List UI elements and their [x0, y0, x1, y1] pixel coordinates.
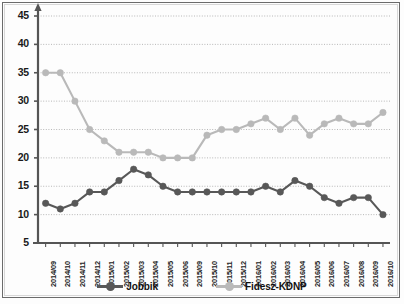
- legend-label: Jobbik: [126, 281, 158, 292]
- legend-swatch-marker: [225, 282, 234, 291]
- y-axis-tick-label: 10: [5, 208, 29, 220]
- y-axis-tick-label: 40: [5, 37, 29, 49]
- y-axis-tick-label: 15: [5, 179, 29, 191]
- y-axis-tick-label: 25: [5, 123, 29, 135]
- chart-figure: 51015202530354045 2014/092014/102014/112…: [0, 0, 404, 304]
- legend-item-fidesz-kdnp[interactable]: Fidesz-KDNP: [216, 281, 307, 292]
- chart-svg: [0, 0, 404, 304]
- y-axis-tick-label: 45: [5, 9, 29, 21]
- y-axis-tick-label: 35: [5, 66, 29, 78]
- y-axis-tick-label: 30: [5, 94, 29, 106]
- legend-swatch-marker: [106, 282, 115, 291]
- legend-item-jobbik[interactable]: Jobbik: [97, 281, 158, 292]
- chart-legend: JobbikFidesz-KDNP: [0, 281, 404, 292]
- legend-swatch-line: [97, 285, 123, 288]
- plot-area: 51015202530354045 2014/092014/102014/112…: [0, 0, 404, 304]
- series-layer: [42, 70, 386, 218]
- y-axis-tick-label: 20: [5, 151, 29, 163]
- legend-label: Fidesz-KDNP: [245, 281, 307, 292]
- y-axis-tick-label: 5: [5, 236, 29, 248]
- legend-swatch-line: [216, 285, 242, 288]
